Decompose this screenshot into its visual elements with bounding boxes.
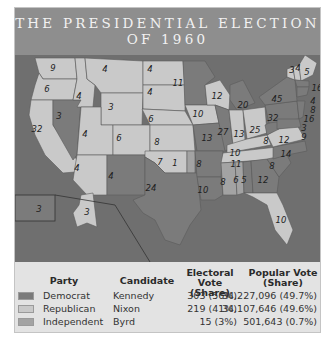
- svg-text:3: 3: [289, 65, 294, 75]
- popular-cell: 501,643 (0.7%): [243, 316, 317, 327]
- header-popular: Popular Vote (Share): [247, 268, 319, 288]
- svg-text:4: 4: [295, 63, 300, 73]
- results-table: Party Candidate Electoral Vote (Share) P…: [15, 262, 320, 332]
- state-MD-DE: [277, 119, 301, 129]
- svg-text:11: 11: [173, 78, 184, 88]
- header-party: Party: [39, 276, 89, 286]
- svg-text:12: 12: [258, 175, 269, 185]
- party-cell: Republican: [43, 303, 95, 314]
- svg-text:24: 24: [146, 183, 157, 193]
- svg-text:6: 6: [233, 175, 239, 185]
- election-map-panel: THE PRESIDENTIAL ELECTION OF 1960: [14, 7, 321, 333]
- state-WA: [35, 58, 77, 79]
- independent-swatch: [18, 318, 34, 326]
- party-cell: Independent: [43, 316, 103, 327]
- svg-text:10: 10: [193, 109, 204, 119]
- svg-text:5: 5: [304, 67, 309, 77]
- svg-text:32: 32: [268, 113, 279, 123]
- svg-text:6: 6: [44, 84, 50, 94]
- us-electoral-map: 9 6 32 3 4 4 3 4 6 4 4 4 4 6 8 7 1 24 11…: [15, 55, 320, 262]
- svg-text:4: 4: [82, 129, 87, 139]
- svg-text:8: 8: [269, 161, 275, 171]
- popular-cell: 34,227,096 (49.7%): [222, 290, 317, 301]
- svg-text:4: 4: [108, 171, 113, 181]
- header-electoral-line1: Electoral Vote: [175, 268, 245, 288]
- svg-text:8: 8: [196, 159, 202, 169]
- table-row-democrat: Democrat Kennedy 303 (56%) 34,227,096 (4…: [15, 289, 320, 303]
- svg-text:10: 10: [230, 148, 241, 158]
- svg-text:9: 9: [301, 132, 306, 142]
- svg-text:6: 6: [116, 133, 122, 143]
- svg-text:14: 14: [281, 149, 292, 159]
- svg-text:27: 27: [218, 127, 229, 137]
- svg-text:6: 6: [148, 114, 154, 124]
- candidate-cell: Kennedy: [113, 290, 154, 301]
- svg-text:20: 20: [238, 100, 249, 110]
- svg-text:4: 4: [147, 64, 152, 74]
- map-svg: 9 6 32 3 4 4 3 4 6 4 4 4 4 6 8 7 1 24 11…: [15, 55, 320, 262]
- democrat-swatch: [18, 292, 34, 300]
- header-candidate: Candidate: [117, 276, 177, 286]
- title-line-2: OF 1960: [15, 31, 320, 47]
- svg-text:13: 13: [234, 129, 245, 139]
- svg-text:8: 8: [154, 137, 160, 147]
- candidate-cell: Nixon: [113, 303, 140, 314]
- header-popular-line2: (Share): [247, 278, 319, 288]
- title-bar: THE PRESIDENTIAL ELECTION OF 1960: [15, 8, 320, 55]
- svg-text:3: 3: [56, 111, 61, 121]
- table-row-republican: Republican Nixon 219 (41%) 34,107,646 (4…: [15, 302, 320, 316]
- svg-text:12: 12: [279, 135, 290, 145]
- electoral-cell: 15 (3%): [199, 316, 237, 327]
- svg-text:7: 7: [157, 157, 163, 167]
- svg-text:3: 3: [108, 102, 113, 112]
- state-MA: [295, 80, 309, 87]
- svg-text:4: 4: [102, 64, 107, 74]
- party-cell: Democrat: [43, 290, 90, 301]
- svg-text:9: 9: [50, 63, 55, 73]
- state-OK-byrd: [187, 151, 195, 173]
- svg-text:16: 16: [312, 83, 320, 93]
- inset-divider: [55, 195, 150, 262]
- svg-text:5: 5: [241, 175, 246, 185]
- svg-text:11: 11: [231, 159, 242, 169]
- republican-swatch: [18, 305, 34, 313]
- svg-text:45: 45: [272, 94, 283, 104]
- state-CT-RI: [297, 87, 309, 97]
- svg-text:32: 32: [32, 124, 43, 134]
- svg-text:4: 4: [76, 91, 81, 101]
- svg-text:8: 8: [220, 177, 226, 187]
- title-line-1: THE PRESIDENTIAL ELECTION: [15, 15, 320, 31]
- popular-cell: 34,107,646 (49.6%): [222, 303, 317, 314]
- svg-text:25: 25: [250, 125, 261, 135]
- svg-text:1: 1: [172, 158, 177, 168]
- table-row-independent: Independent Byrd 15 (3%) 501,643 (0.7%): [15, 315, 320, 329]
- svg-text:4: 4: [74, 163, 79, 173]
- svg-text:8: 8: [263, 136, 269, 146]
- svg-text:13: 13: [202, 133, 213, 143]
- candidate-cell: Byrd: [113, 316, 135, 327]
- svg-text:10: 10: [276, 215, 287, 225]
- state-AZ: [73, 155, 107, 195]
- svg-text:3: 3: [36, 204, 41, 214]
- svg-text:3: 3: [84, 207, 89, 217]
- svg-text:4: 4: [147, 87, 152, 97]
- svg-text:12: 12: [212, 91, 223, 101]
- hawaii-inset: [15, 195, 55, 221]
- svg-text:10: 10: [198, 185, 209, 195]
